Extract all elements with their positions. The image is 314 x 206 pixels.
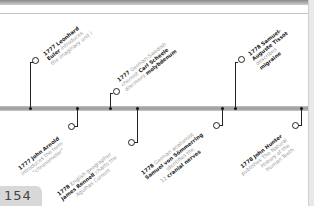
- event-scheele: 1777 German-Swedish chemist Carl Scheele…: [116, 39, 178, 93]
- stem: [110, 93, 111, 108]
- stem: [137, 110, 138, 142]
- event-hunter: 1778 John Hunter publishes The Natural H…: [236, 132, 295, 186]
- timeline-axis: [0, 106, 308, 111]
- stem: [301, 110, 302, 125]
- stem: [235, 62, 236, 108]
- ring-icon: [32, 57, 39, 64]
- ring-icon: [113, 88, 120, 95]
- event-rennell: 1778 English geographer James Rennell ch…: [56, 149, 122, 206]
- top-strip: [0, 0, 308, 5]
- stem: [30, 62, 31, 108]
- ring-icon: [238, 56, 245, 63]
- ring-icon: [68, 123, 75, 130]
- stem-elbow: [235, 62, 238, 63]
- page-number: 154: [4, 188, 32, 203]
- ring-icon: [213, 122, 220, 129]
- event-euler: 1777 Leonhard Euler introduces the imagi…: [42, 21, 93, 67]
- top-rule: [0, 13, 308, 14]
- stem: [222, 110, 223, 125]
- event-tissot: 1778 Samuel- Auguste Tissot describes mi…: [247, 25, 296, 71]
- ring-icon: [128, 139, 135, 146]
- event-arnold: 1777 John Arnold introduces the term "ch…: [16, 135, 68, 181]
- page-number-tab: 154: [0, 186, 42, 206]
- stem: [77, 110, 78, 126]
- ring-icon: [292, 122, 299, 129]
- page-edge: [308, 0, 314, 206]
- event-soemmerring: 1778 German anatomist Samuel von Sömmerr…: [140, 127, 211, 190]
